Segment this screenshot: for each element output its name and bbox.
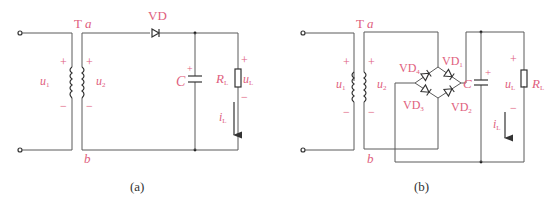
node-a-label: a bbox=[367, 16, 374, 31]
input-terminal-bottom bbox=[301, 148, 305, 152]
primary-plus: + bbox=[60, 55, 67, 69]
load-voltage-label: uL bbox=[243, 72, 253, 87]
secondary-wire-b bbox=[364, 98, 438, 149]
primary-voltage-label: u1 bbox=[40, 74, 50, 89]
primary-minus: − bbox=[343, 105, 350, 119]
secondary-minus: − bbox=[368, 105, 375, 119]
capacitor-plus: + bbox=[485, 66, 491, 78]
load-plus: + bbox=[510, 52, 517, 66]
diode-vd1-icon bbox=[444, 69, 454, 80]
load-minus: − bbox=[510, 101, 517, 115]
node-b-label: b bbox=[84, 151, 91, 166]
capacitor-label: C bbox=[463, 76, 472, 91]
caption-a: (a) bbox=[130, 179, 144, 194]
diode-vd3-icon bbox=[421, 85, 431, 96]
secondary-wire-bottom bbox=[82, 87, 238, 150]
output-wire-top bbox=[159, 33, 238, 69]
secondary-minus: − bbox=[86, 99, 93, 113]
secondary-plus: + bbox=[368, 55, 375, 69]
resistor-label: RL bbox=[215, 71, 228, 87]
secondary-voltage-label: u2 bbox=[96, 74, 106, 89]
primary-minus: − bbox=[60, 99, 67, 113]
diode-vd4-label: VD4 bbox=[399, 61, 420, 76]
diagram-a: T a b VD + − + − u1 u2 C + RL uL + − iL … bbox=[18, 8, 253, 194]
caption-b: (b) bbox=[414, 179, 429, 194]
input-terminal-top bbox=[18, 31, 22, 35]
transformer-label: T bbox=[74, 16, 82, 31]
load-plus: + bbox=[241, 53, 248, 67]
secondary-voltage-label: u2 bbox=[377, 77, 387, 92]
diode-vd4-icon bbox=[421, 70, 431, 81]
capacitor-icon bbox=[188, 76, 202, 82]
primary-plus: + bbox=[343, 55, 350, 69]
input-terminal-top bbox=[301, 31, 305, 35]
diode-vd1-label: VD1 bbox=[442, 54, 463, 69]
primary-coil-icon bbox=[70, 67, 72, 98]
diagram-b: T a b + − + − u1 u2 VD4 VD1 VD3 VD2 C + … bbox=[301, 16, 544, 194]
diode-vd3-label: VD3 bbox=[403, 98, 424, 113]
secondary-coil-icon bbox=[82, 67, 84, 98]
diode-vd2-label: VD2 bbox=[451, 100, 472, 115]
circuit-diagrams: T a b VD + − + − u1 u2 C + RL uL + − iL … bbox=[0, 0, 558, 203]
load-current-label: iL bbox=[219, 110, 227, 125]
transformer-label: T bbox=[356, 16, 364, 31]
resistor-icon bbox=[521, 70, 527, 87]
bridge-rectifier bbox=[415, 67, 461, 98]
input-terminal-bottom bbox=[18, 148, 22, 152]
secondary-plus: + bbox=[86, 55, 93, 69]
node-b-label: b bbox=[367, 151, 374, 166]
capacitor-plus: + bbox=[187, 63, 193, 74]
diode-vd2-icon bbox=[444, 86, 454, 97]
primary-voltage-label: u1 bbox=[336, 77, 346, 92]
diode-label: VD bbox=[148, 8, 167, 23]
capacitor-icon bbox=[474, 80, 488, 85]
diode-icon bbox=[152, 29, 159, 37]
load-current-label: iL bbox=[493, 117, 501, 132]
resistor-label: RL bbox=[531, 76, 544, 92]
node-a-label: a bbox=[85, 16, 92, 31]
secondary-coil-icon bbox=[364, 72, 366, 102]
capacitor-label: C bbox=[176, 74, 186, 89]
resistor-icon bbox=[235, 69, 241, 87]
load-voltage-label: uL bbox=[505, 77, 515, 92]
load-minus: − bbox=[241, 90, 248, 104]
